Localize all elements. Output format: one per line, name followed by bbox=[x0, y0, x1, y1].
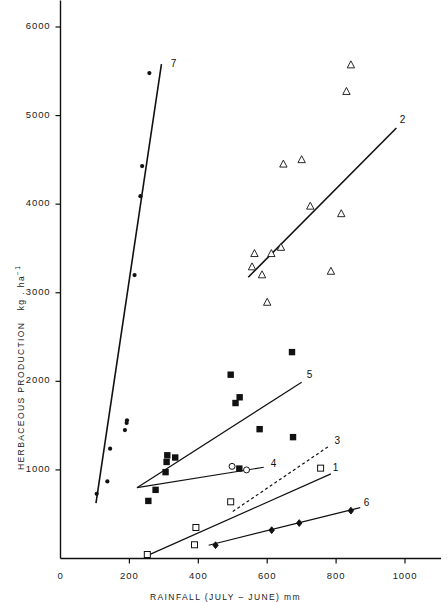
x-tick-label: 1000 bbox=[375, 570, 435, 581]
data-point-series-2 bbox=[251, 250, 258, 257]
data-point-series-2 bbox=[258, 271, 265, 278]
regression-line-1 bbox=[147, 474, 331, 556]
x-axis-title: RAINFALL (JULY – JUNE) mm bbox=[150, 592, 301, 602]
data-point-series-7 bbox=[138, 194, 142, 198]
series-label-3: 3 bbox=[334, 435, 340, 446]
series-label-4: 4 bbox=[271, 458, 277, 469]
x-tick-label: 800 bbox=[306, 570, 366, 581]
y-axis-title-main: HERBACEOUS PRODUCTION bbox=[16, 322, 26, 470]
data-point-series-1 bbox=[318, 465, 324, 471]
data-point-series-7 bbox=[140, 164, 144, 168]
data-point-series-1 bbox=[192, 542, 198, 548]
data-point-series-2 bbox=[280, 160, 287, 167]
data-point-series-5 bbox=[289, 349, 295, 355]
data-point-series-5 bbox=[236, 465, 242, 471]
data-point-series-7 bbox=[132, 273, 136, 277]
data-point-series-5 bbox=[290, 434, 296, 440]
data-point-series-7 bbox=[95, 492, 99, 496]
data-point-series-2 bbox=[307, 202, 314, 209]
data-point-series-6 bbox=[297, 520, 302, 527]
data-point-series-2 bbox=[343, 87, 350, 94]
y-tick-label: 5000 bbox=[8, 109, 51, 120]
data-point-series-1 bbox=[228, 499, 234, 505]
x-tick-label: 200 bbox=[99, 570, 159, 581]
series-label-1: 1 bbox=[333, 462, 339, 473]
data-point-series-5 bbox=[232, 400, 238, 406]
series-label-7: 7 bbox=[171, 58, 177, 69]
data-point-series-5 bbox=[145, 498, 151, 504]
series-label-2: 2 bbox=[400, 114, 406, 125]
data-point-series-7 bbox=[123, 428, 127, 432]
data-point-series-2 bbox=[338, 210, 345, 217]
data-point-series-5 bbox=[164, 452, 170, 458]
regression-line-6 bbox=[209, 508, 361, 546]
data-point-series-5 bbox=[172, 454, 178, 460]
y-axis-units: kg . ha bbox=[16, 275, 26, 310]
data-point-series-4 bbox=[229, 463, 235, 469]
regression-line-5 bbox=[137, 382, 302, 487]
data-point-series-2 bbox=[298, 156, 305, 163]
x-tick-label: 0 bbox=[31, 570, 91, 581]
data-point-series-7 bbox=[147, 71, 151, 75]
axes-group bbox=[56, 0, 442, 563]
data-point-series-4 bbox=[244, 467, 250, 473]
y-axis-title: HERBACEOUS PRODUCTION kg . ha−1 bbox=[14, 265, 26, 470]
data-point-series-6 bbox=[269, 527, 274, 534]
data-point-series-2 bbox=[327, 267, 334, 274]
data-point-series-7 bbox=[105, 479, 109, 483]
data-point-series-5 bbox=[163, 459, 169, 465]
data-point-series-7 bbox=[125, 418, 129, 422]
data-point-series-2 bbox=[248, 263, 255, 270]
x-tick-label: 600 bbox=[237, 570, 297, 581]
data-point-series-5 bbox=[236, 394, 242, 400]
regression-line-3 bbox=[233, 446, 329, 512]
data-point-series-5 bbox=[227, 371, 233, 377]
x-tick-label: 400 bbox=[168, 570, 228, 581]
series-label-6: 6 bbox=[364, 497, 370, 508]
data-point-series-7 bbox=[108, 447, 112, 451]
y-tick-label: 4000 bbox=[8, 197, 51, 208]
data-point-series-1 bbox=[193, 524, 199, 530]
series-label-5: 5 bbox=[307, 369, 313, 380]
data-point-series-2 bbox=[264, 298, 271, 305]
data-point-series-5 bbox=[256, 426, 262, 432]
y-tick-label: 6000 bbox=[8, 20, 51, 31]
data-markers-group bbox=[95, 61, 355, 558]
data-point-series-5 bbox=[152, 487, 158, 493]
data-point-series-5 bbox=[162, 469, 168, 475]
regression-lines-group bbox=[96, 64, 396, 556]
data-point-series-2 bbox=[347, 61, 354, 68]
data-point-series-6 bbox=[348, 507, 353, 514]
regression-line-7 bbox=[96, 64, 161, 503]
data-point-series-1 bbox=[144, 552, 150, 558]
y-axis-units-exponent: −1 bbox=[14, 265, 21, 275]
